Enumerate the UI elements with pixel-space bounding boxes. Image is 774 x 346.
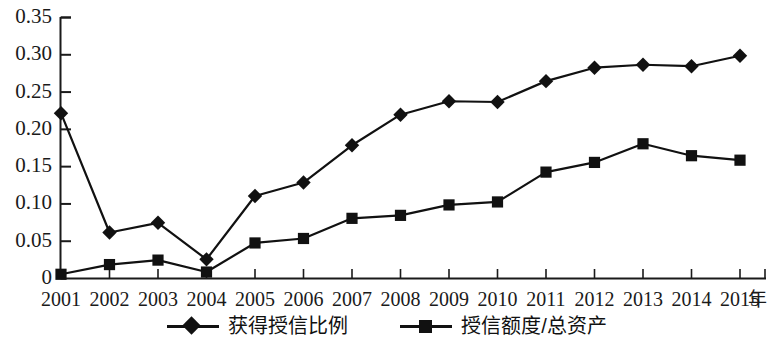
data-point-diamond [539, 74, 553, 88]
data-point-square [55, 269, 66, 280]
y-tick-label: 0.15 [15, 155, 52, 176]
data-point-diamond [490, 95, 504, 109]
data-point-diamond [587, 60, 601, 74]
data-point-square [346, 213, 357, 224]
y-tick-label: 0 [42, 267, 53, 288]
diamond-marker-icon [167, 317, 219, 335]
series-line-1 [61, 56, 740, 260]
data-point-square [443, 199, 454, 210]
y-tick-label: 0.05 [15, 230, 52, 251]
y-tick-label: 0.20 [15, 118, 52, 139]
chart-legend: 获得授信比例 授信额度/总资产 [0, 316, 774, 336]
legend-item-series-1: 获得授信比例 [167, 316, 348, 336]
data-point-square [201, 266, 212, 277]
y-tick-label: 0.30 [15, 43, 52, 64]
data-point-diamond [442, 94, 456, 108]
data-series-layer [54, 49, 747, 280]
legend-item-series-2: 授信额度/总资产 [400, 316, 607, 336]
legend-label-series-1: 获得授信比例 [228, 316, 348, 336]
data-point-square [540, 167, 551, 178]
y-axis-ticks [61, 18, 71, 242]
y-tick-label: 0.35 [15, 6, 52, 27]
data-point-square [589, 157, 600, 168]
data-point-square [152, 255, 163, 266]
data-point-square [249, 237, 260, 248]
legend-label-series-2: 授信额度/总资产 [461, 316, 607, 336]
line-chart: 00.050.100.150.200.250.300.35 2001200220… [0, 0, 774, 346]
data-point-square [637, 138, 648, 149]
data-point-square [395, 210, 406, 221]
data-point-square [686, 150, 697, 161]
data-point-square [734, 155, 745, 166]
data-point-diamond [102, 225, 116, 239]
square-marker-icon [400, 317, 452, 335]
data-point-diamond [733, 49, 747, 63]
y-tick-label: 0.10 [15, 192, 52, 213]
data-point-diamond [684, 59, 698, 73]
data-point-diamond [393, 107, 407, 121]
y-tick-label: 0.25 [15, 81, 52, 102]
x-axis-ticks [61, 269, 765, 278]
data-point-diamond [636, 58, 650, 72]
data-point-square [104, 259, 115, 270]
data-point-square [298, 233, 309, 244]
x-axis-unit-label: 年 [748, 290, 767, 309]
data-point-square [492, 196, 503, 207]
data-point-diamond [54, 106, 68, 120]
